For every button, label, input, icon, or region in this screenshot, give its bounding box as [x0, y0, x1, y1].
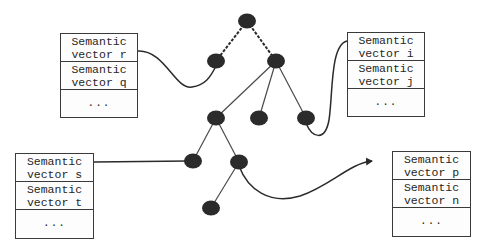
vector-row: Semantic vector t [16, 182, 93, 210]
tree-node-l3-a [184, 154, 202, 169]
link-r-to-l1-left [138, 51, 216, 87]
tree-node-l2-a [207, 111, 225, 126]
tree-node-l2-c [297, 111, 315, 126]
tree-node-root [238, 14, 256, 29]
tree-node-l2-b [250, 111, 268, 126]
ellipsis-row: ... [16, 210, 93, 238]
vector-name: vector t [16, 196, 93, 209]
semantic-vector-box-top-left: Semantic vector r Semantic vector q ... [60, 33, 138, 118]
link-s-to-l3a [94, 161, 188, 162]
vector-name: vector p [393, 166, 470, 179]
tree-edge [276, 61, 306, 118]
tree-node-l1-right [267, 54, 285, 69]
link-l3b-to-p [239, 161, 372, 199]
vector-label: Semantic [61, 63, 137, 76]
vector-label: Semantic [393, 181, 470, 194]
vector-name: vector i [348, 47, 424, 60]
vector-name: vector q [61, 76, 137, 89]
vector-row: Semantic vector s [16, 154, 93, 182]
semantic-vector-box-top-right: Semantic vector i Semantic vector j ... [347, 32, 425, 117]
ellipsis-row: ... [61, 90, 137, 118]
vector-row: Semantic vector r [61, 34, 137, 62]
tree-node-l4-a [202, 201, 220, 216]
vector-label: Semantic [16, 155, 93, 168]
tree-node-l1-left [207, 54, 225, 69]
vector-row: Semantic vector p [393, 152, 470, 180]
vector-name: vector s [16, 168, 93, 181]
ellipsis-row: ... [393, 208, 470, 236]
tree-node-l3-b [230, 155, 248, 170]
vector-label: Semantic [61, 35, 137, 48]
vector-row: Semantic vector n [393, 180, 470, 208]
vector-row: Semantic vector i [348, 33, 424, 61]
vector-label: Semantic [16, 183, 93, 196]
vector-name: vector j [348, 75, 424, 88]
vector-label: Semantic [393, 153, 470, 166]
vector-label: Semantic [348, 62, 424, 75]
vector-row: Semantic vector q [61, 62, 137, 90]
vector-name: vector n [393, 194, 470, 207]
vector-row: Semantic vector j [348, 61, 424, 89]
ellipsis-row: ... [348, 89, 424, 117]
vector-label: Semantic [348, 34, 424, 47]
semantic-vector-box-bottom-right: Semantic vector p Semantic vector n ... [392, 151, 471, 237]
tree-nodes [184, 14, 315, 216]
semantic-vector-box-bottom-left: Semantic vector s Semantic vector t ... [15, 153, 94, 239]
tree-edge [211, 162, 239, 208]
vector-name: vector r [61, 48, 137, 61]
